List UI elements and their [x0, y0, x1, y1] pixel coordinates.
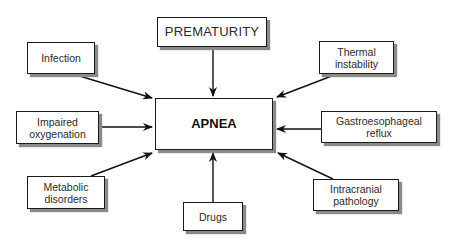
node-label: Drugs: [199, 211, 227, 223]
arrow-intracranial-pathology: [278, 153, 333, 179]
arrow-metabolic-disorders: [91, 153, 152, 176]
node-label: Metabolic disorders: [44, 181, 89, 205]
node-impaired-oxygenation: Impaired oxygenation: [16, 111, 99, 144]
node-label: Intracranial pathology: [330, 183, 382, 207]
node-label: APNEA: [191, 118, 237, 130]
arrow-thermal-instability: [277, 74, 337, 97]
node-drugs: Drugs: [183, 202, 243, 231]
node-infection: Infection: [27, 42, 95, 74]
node-gastroesophageal-reflux: Gastroesophageal reflux: [321, 111, 437, 143]
node-thermal-instability: Thermal instability: [319, 41, 394, 74]
node-metabolic-disorders: Metabolic disorders: [27, 176, 105, 209]
node-label: Thermal instability: [335, 46, 378, 70]
apnea-causes-diagram: PREMATURITY APNEA Infection Impaired oxy…: [0, 0, 451, 247]
node-label: PREMATURITY: [165, 26, 259, 38]
node-label: Gastroesophageal reflux: [336, 115, 422, 139]
node-prematurity: PREMATURITY: [157, 17, 267, 47]
node-apnea: APNEA: [155, 98, 273, 150]
node-intracranial-pathology: Intracranial pathology: [313, 179, 399, 211]
node-label: Impaired oxygenation: [29, 116, 86, 140]
node-label: Infection: [41, 52, 81, 64]
arrow-infection: [73, 74, 152, 98]
